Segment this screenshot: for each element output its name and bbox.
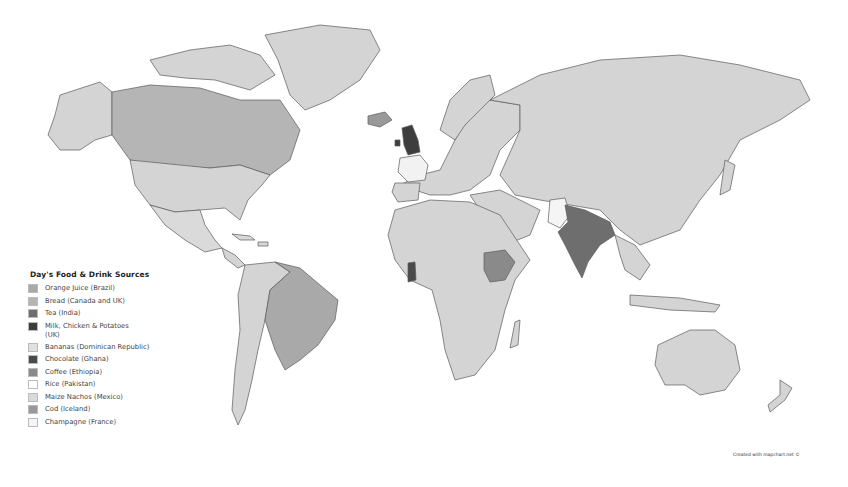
legend-swatch bbox=[28, 355, 38, 364]
legend-swatch bbox=[28, 418, 38, 427]
region-indonesia bbox=[630, 295, 720, 312]
region-australia bbox=[655, 330, 740, 395]
region-new-zealand bbox=[768, 380, 792, 412]
region-france bbox=[398, 155, 428, 182]
region-central-america bbox=[222, 248, 245, 268]
legend-label: Champagne (France) bbox=[45, 418, 195, 427]
region-arctic-islands bbox=[150, 45, 275, 90]
legend-item-champagne: Champagne (France) bbox=[28, 418, 218, 429]
region-caribbean bbox=[232, 234, 268, 246]
region-iceland bbox=[368, 112, 392, 127]
legend-swatch bbox=[28, 405, 38, 414]
legend-label: Chocolate (Ghana) bbox=[45, 355, 195, 364]
legend-swatch bbox=[28, 343, 38, 352]
legend-item-orange-juice: Orange Juice (Brazil) bbox=[28, 284, 218, 295]
legend-item-bread: Bread (Canada and UK) bbox=[28, 297, 218, 308]
legend-label: Tea (India) bbox=[45, 309, 195, 318]
legend-swatch bbox=[28, 393, 38, 402]
legend-label: Coffee (Ethiopia) bbox=[45, 368, 195, 377]
legend-label: Maize Nachos (Mexico) bbox=[45, 393, 195, 402]
legend-swatch bbox=[28, 297, 38, 306]
legend-item-cod: Cod (Iceland) bbox=[28, 405, 218, 416]
legend-label: Milk, Chicken & Potatoes (UK) bbox=[45, 322, 140, 340]
legend-item-milk-chicken-potatoes: Milk, Chicken & Potatoes (UK) bbox=[28, 322, 218, 341]
legend-swatch bbox=[28, 309, 38, 318]
legend-item-chocolate: Chocolate (Ghana) bbox=[28, 355, 218, 366]
legend-label: Cod (Iceland) bbox=[45, 405, 195, 414]
map-legend: Day's Food & Drink Sources Orange Juice … bbox=[28, 270, 218, 430]
legend-item-maize-nachos: Maize Nachos (Mexico) bbox=[28, 393, 218, 404]
region-madagascar bbox=[510, 320, 520, 348]
legend-swatch bbox=[28, 380, 38, 389]
legend-swatch bbox=[28, 284, 38, 293]
legend-swatch bbox=[28, 368, 38, 377]
region-alaska bbox=[48, 82, 112, 150]
legend-item-tea: Tea (India) bbox=[28, 309, 218, 320]
legend-label: Orange Juice (Brazil) bbox=[45, 284, 195, 293]
legend-label: Rice (Pakistan) bbox=[45, 380, 195, 389]
region-iberia bbox=[392, 183, 420, 202]
mapchart-credit: Created with mapchart.net © bbox=[733, 452, 800, 457]
region-greenland bbox=[265, 25, 380, 110]
region-asia bbox=[490, 55, 810, 245]
legend-title: Day's Food & Drink Sources bbox=[30, 270, 218, 279]
region-ghana bbox=[408, 262, 416, 282]
legend-item-bananas: Bananas (Dominican Republic) bbox=[28, 343, 218, 354]
legend-label: Bread (Canada and UK) bbox=[45, 297, 195, 306]
region-mexico bbox=[150, 205, 222, 252]
legend-label: Bananas (Dominican Republic) bbox=[45, 343, 195, 352]
legend-swatch bbox=[28, 322, 38, 331]
legend-item-coffee: Coffee (Ethiopia) bbox=[28, 368, 218, 379]
region-uk bbox=[395, 125, 420, 155]
legend-item-rice: Rice (Pakistan) bbox=[28, 380, 218, 391]
